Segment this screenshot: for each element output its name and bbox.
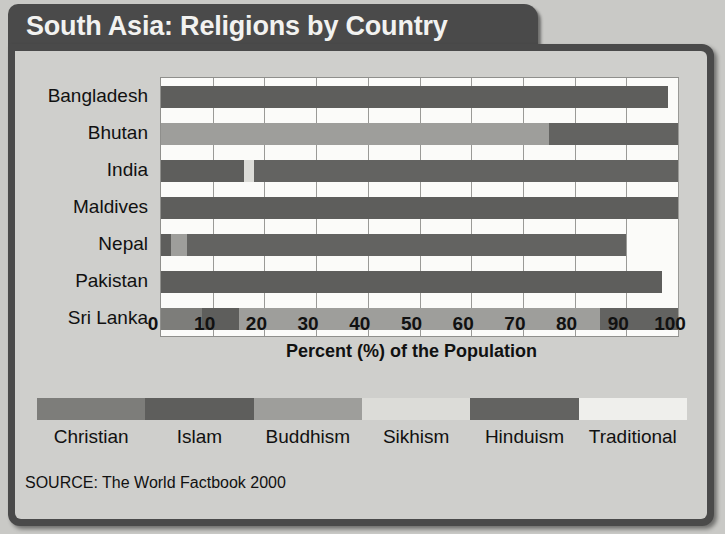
category-label-sri-lanka: Sri Lanka — [68, 308, 148, 328]
x-tick-label: 100 — [654, 313, 686, 335]
bar-segment — [244, 160, 254, 182]
bar-row — [161, 123, 678, 145]
x-tick-label: 10 — [194, 313, 215, 335]
legend-swatch-christian — [37, 398, 145, 420]
bar-segment — [161, 234, 171, 256]
legend-swatch-sikhism — [362, 398, 470, 420]
bar-segment — [187, 234, 626, 256]
bar-segment — [161, 271, 662, 293]
x-tick-label: 40 — [349, 313, 370, 335]
legend-label-christian: Christian — [54, 426, 129, 448]
bar-segment — [161, 160, 244, 182]
category-label-bangladesh: Bangladesh — [48, 86, 148, 106]
gridline — [678, 78, 679, 336]
legend-label-hinduism: Hinduism — [485, 426, 564, 448]
plot-area — [160, 77, 679, 337]
legend-label-islam: Islam — [177, 426, 222, 448]
x-tick-label: 90 — [608, 313, 629, 335]
legend-swatch-hinduism — [470, 398, 578, 420]
legend-swatch-traditional — [579, 398, 687, 420]
x-axis-ticks: 0102030405060708090100 — [152, 313, 671, 339]
page-title: South Asia: Religions by Country — [26, 11, 448, 42]
legend-label-traditional: Traditional — [589, 426, 677, 448]
bar-segment — [549, 123, 678, 145]
x-axis-title: Percent (%) of the Population — [152, 341, 671, 362]
category-label-bhutan: Bhutan — [88, 123, 148, 143]
legend-label-sikhism: Sikhism — [383, 426, 450, 448]
legend-swatch-bar — [37, 398, 687, 420]
bar-row — [161, 86, 678, 108]
bar-segment — [161, 123, 549, 145]
bar-segment — [161, 197, 678, 219]
category-label-pakistan: Pakistan — [75, 271, 148, 291]
chart-panel: BangladeshBhutanIndiaMaldivesNepalPakist… — [15, 51, 707, 519]
x-tick-label: 60 — [453, 313, 474, 335]
x-tick-label: 20 — [246, 313, 267, 335]
x-tick-label: 80 — [556, 313, 577, 335]
category-label-nepal: Nepal — [98, 234, 148, 254]
chart-panel-frame: BangladeshBhutanIndiaMaldivesNepalPakist… — [8, 44, 714, 526]
legend: ChristianIslamBuddhismSikhismHinduismTra… — [37, 398, 687, 468]
bar-segment — [254, 160, 678, 182]
bar-segment — [171, 234, 187, 256]
category-axis-labels: BangladeshBhutanIndiaMaldivesNepalPakist… — [23, 77, 154, 337]
x-tick-label: 30 — [298, 313, 319, 335]
bar-row — [161, 234, 678, 256]
bar-row — [161, 271, 678, 293]
source-note: SOURCE: The World Factbook 2000 — [25, 474, 286, 492]
legend-swatch-buddhism — [254, 398, 362, 420]
x-tick-label: 0 — [148, 313, 159, 335]
bar-row — [161, 160, 678, 182]
category-label-maldives: Maldives — [73, 197, 148, 217]
chart-figure: South Asia: Religions by Country Banglad… — [0, 0, 725, 534]
category-label-india: India — [107, 160, 148, 180]
bar-row — [161, 197, 678, 219]
x-tick-label: 70 — [504, 313, 525, 335]
legend-swatch-islam — [145, 398, 253, 420]
bar-segment — [161, 86, 668, 108]
legend-label-buddhism: Buddhism — [266, 426, 351, 448]
x-tick-label: 50 — [401, 313, 422, 335]
